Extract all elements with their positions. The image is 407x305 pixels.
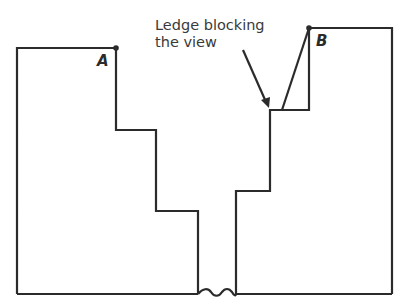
right-building-outline [236, 28, 392, 294]
sight-line [282, 28, 309, 110]
annotation-arrow-head [261, 97, 270, 108]
annotation-line-1: Ledge blocking [155, 17, 265, 33]
left-building-outline [17, 48, 198, 294]
point-b-label: B [316, 32, 327, 50]
point-b-marker [306, 25, 312, 31]
annotation-line-2: the view [155, 34, 217, 50]
break-wave [198, 289, 236, 296]
annotation-arrow-shaft [243, 50, 266, 102]
building-diagram: A B Ledge blocking the view [0, 0, 407, 305]
point-a-marker [113, 45, 119, 51]
point-a-label: A [96, 52, 109, 70]
